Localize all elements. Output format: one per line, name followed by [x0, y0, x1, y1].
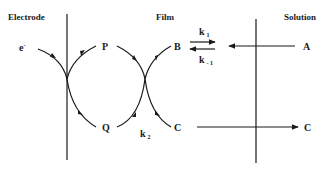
film-header: Film [156, 12, 174, 22]
species-C-solution-label: C [304, 122, 311, 133]
arrowhead-icon [155, 110, 160, 116]
B-to-film-curve [145, 46, 171, 79]
arrowhead-icon [78, 110, 83, 115]
electrode-film-solution-diagram: Electrode Film Solution e- P Q B C A C k… [0, 0, 327, 172]
film-to-C-curve [145, 79, 171, 127]
arrowhead-icon [50, 53, 56, 58]
rate-constant-k2-label: k2 [140, 128, 151, 140]
species-P-label: P [102, 41, 108, 52]
Q-to-film-curve [117, 79, 145, 127]
electron-label: e- [19, 42, 25, 53]
electron-in-curve [38, 49, 67, 79]
arrowhead-icon [155, 55, 158, 61]
species-C-film-label: C [174, 122, 181, 133]
P-to-film-curve [117, 46, 145, 79]
arrowhead-icon [132, 55, 137, 61]
electrode-to-Q-curve [67, 79, 96, 127]
solution-header: Solution [284, 12, 316, 22]
rate-constant-k-minus1-label: k- 1 [199, 54, 213, 66]
species-A-label: A [303, 41, 311, 52]
rate-constant-k1-label: k1 [199, 26, 210, 38]
species-Q-label: Q [102, 122, 110, 133]
species-B-label: B [174, 41, 181, 52]
electrode-header: Electrode [8, 12, 45, 22]
